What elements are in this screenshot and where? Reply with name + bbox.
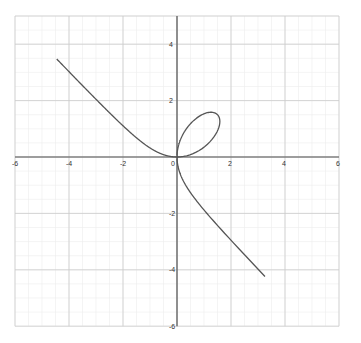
x-tick-label: 0 xyxy=(171,160,175,167)
x-tick-label: -2 xyxy=(120,160,126,167)
x-tick-label: 4 xyxy=(282,160,286,167)
graph-plot: -6-4-20246-6-4-224 xyxy=(0,0,361,343)
x-tick-label: 6 xyxy=(336,160,340,167)
y-tick-label: -2 xyxy=(169,210,175,217)
x-tick-label: 2 xyxy=(228,160,232,167)
y-tick-label: -6 xyxy=(169,323,175,330)
y-tick-label: -4 xyxy=(169,266,175,273)
x-tick-label: -6 xyxy=(12,160,18,167)
y-tick-label: 2 xyxy=(169,97,173,104)
y-tick-label: 4 xyxy=(169,41,173,48)
x-tick-label: -4 xyxy=(66,160,72,167)
folium-curve xyxy=(57,59,265,276)
